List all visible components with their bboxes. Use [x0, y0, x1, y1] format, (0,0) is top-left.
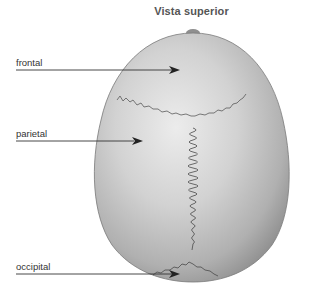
skull-superior-view [0, 0, 317, 299]
label-parietal: parietal [16, 128, 47, 139]
label-occipital: occipital [16, 261, 50, 272]
label-frontal: frontal [16, 57, 42, 68]
